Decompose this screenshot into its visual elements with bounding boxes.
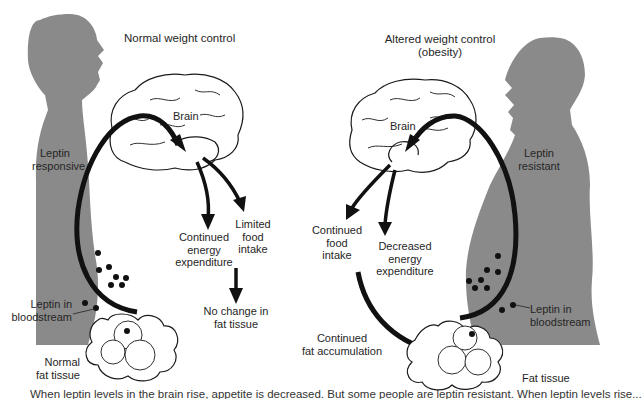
food-arrowhead-icon bbox=[233, 196, 246, 212]
no-change-label: No change in fat tissue bbox=[196, 305, 276, 330]
leptin-resistant-label: Leptin resistant bbox=[514, 147, 564, 172]
obese-person-silhouette bbox=[466, 37, 600, 345]
normal-fat-tissue-icon bbox=[86, 314, 178, 381]
right-bloodstream-label: Leptin in bloodstream bbox=[530, 303, 591, 328]
decreased-energy-arrowhead-icon bbox=[378, 222, 392, 236]
altered-weight-title: Altered weight control (obesity) bbox=[380, 33, 500, 58]
normal-weight-title: Normal weight control bbox=[124, 32, 235, 45]
fat-accumulation-label: Continued fat accumulation bbox=[300, 332, 384, 357]
leptin-responsive-label: Leptin responsive bbox=[32, 147, 78, 172]
normal-person-silhouette bbox=[28, 14, 104, 345]
left-brain-label: Brain bbox=[173, 110, 199, 123]
left-bloodstream-label: Leptin in bloodstream bbox=[8, 298, 72, 323]
fat-tissue-label: Fat tissue bbox=[522, 372, 570, 385]
limited-food-label: Limited food intake bbox=[228, 218, 278, 256]
no-change-arrowhead-icon bbox=[229, 288, 243, 304]
right-brain-label: Brain bbox=[390, 120, 416, 133]
figure-caption: When leptin levels in the brain rise, ap… bbox=[30, 387, 642, 399]
continued-food-label: Continued food intake bbox=[310, 224, 364, 262]
energy-arrowhead-icon bbox=[201, 214, 215, 230]
decreased-energy-label: Decreased energy expenditure bbox=[370, 240, 440, 278]
normal-fat-label: Normal fat tissue bbox=[30, 356, 80, 381]
